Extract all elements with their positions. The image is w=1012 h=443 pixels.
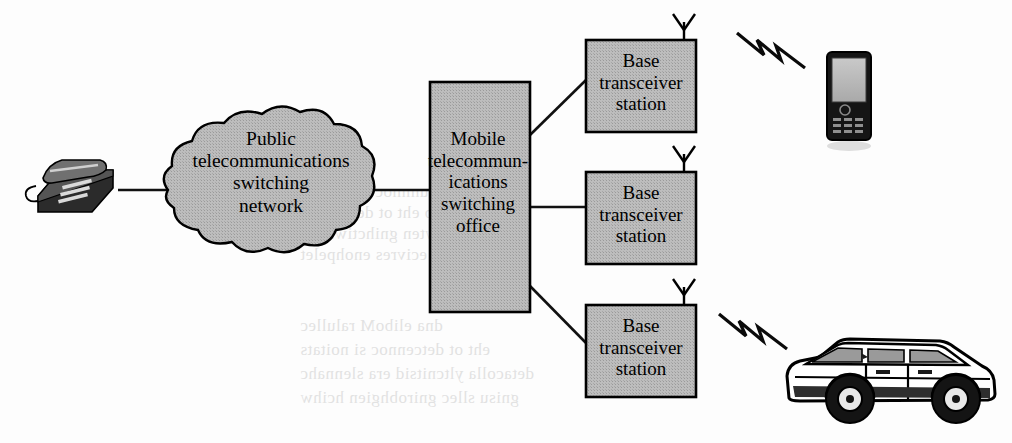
network-cloud-icon [164, 106, 375, 252]
link-mtso-to-bts3 [530, 286, 588, 345]
base-station-box-icon-1 [586, 40, 696, 132]
radio-link-bts3-to-car [719, 314, 787, 349]
switching-office-box-icon [430, 82, 530, 312]
desk-telephone-icon [26, 160, 113, 212]
base-station-box-icon-3 [586, 305, 696, 397]
network-topology-diagram [0, 0, 1012, 443]
radio-link-bts1-to-mobile-phone [737, 33, 805, 68]
car-icon [787, 339, 995, 423]
figure-canvas: noitacinummoc elibom fonoitats esab eht … [0, 0, 1012, 443]
mobile-handset-icon [827, 52, 871, 151]
base-station-box-icon-2 [586, 172, 696, 264]
link-mtso-to-bts1 [530, 80, 586, 135]
